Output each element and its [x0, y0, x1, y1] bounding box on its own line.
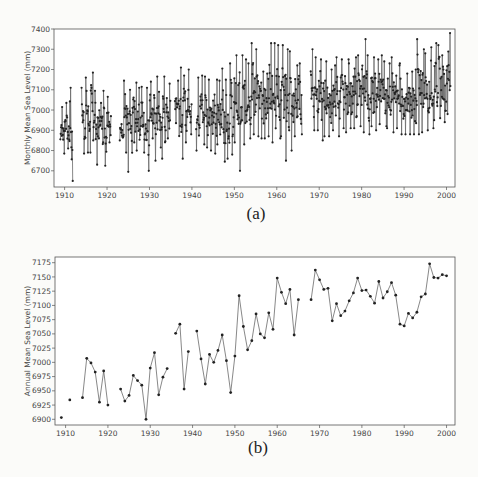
- data-point: [390, 281, 393, 284]
- data-point: [407, 312, 410, 315]
- data-point: [289, 288, 292, 291]
- y-tick-label: 6900: [32, 415, 51, 424]
- data-point: [119, 388, 122, 391]
- x-tick-label: 2000: [437, 429, 456, 438]
- data-point: [297, 298, 300, 301]
- y-tick-label: 7025: [32, 344, 51, 353]
- data-point: [178, 323, 181, 326]
- data-point: [293, 334, 296, 337]
- data-point: [81, 396, 84, 399]
- annual-sea-level-chart: 1910192019301940195019601970198019902000…: [0, 0, 478, 445]
- data-point: [200, 358, 203, 361]
- data-point: [276, 277, 279, 280]
- data-point: [68, 399, 71, 402]
- data-point: [424, 293, 427, 296]
- data-point: [377, 280, 380, 283]
- data-point: [195, 330, 198, 333]
- data-point: [132, 374, 135, 377]
- data-point: [255, 313, 258, 316]
- x-tick-label: 1990: [395, 429, 414, 438]
- data-point: [233, 355, 236, 358]
- y-tick-label: 7150: [32, 273, 51, 282]
- y-tick-label: 7125: [32, 287, 51, 296]
- data-point: [94, 371, 97, 374]
- x-tick-label: 1960: [268, 429, 287, 438]
- plot-frame: [55, 257, 455, 425]
- data-point: [386, 290, 389, 293]
- data-point: [246, 348, 249, 351]
- data-point: [204, 383, 207, 386]
- data-point: [445, 274, 448, 277]
- x-tick-label: 1980: [352, 429, 371, 438]
- data-point: [314, 269, 317, 272]
- data-point: [153, 351, 156, 354]
- data-point: [394, 294, 397, 297]
- y-tick-label: 6950: [32, 386, 51, 395]
- data-point: [217, 349, 220, 352]
- data-point: [441, 273, 444, 276]
- data-point: [280, 291, 283, 294]
- data-point: [85, 357, 88, 360]
- data-point: [428, 262, 431, 265]
- data-point: [90, 362, 93, 365]
- data-point: [360, 289, 363, 292]
- data-point: [403, 325, 406, 328]
- data-point: [267, 311, 270, 314]
- data-point: [310, 298, 313, 301]
- data-point: [284, 302, 287, 305]
- data-point: [162, 376, 165, 379]
- data-point: [212, 361, 215, 364]
- x-tick-label: 1920: [98, 429, 117, 438]
- y-tick-label: 6975: [32, 372, 51, 381]
- data-point: [272, 328, 275, 331]
- data-point: [140, 384, 143, 387]
- y-tick-label: 7075: [32, 315, 51, 324]
- data-point: [399, 323, 402, 326]
- data-point: [102, 369, 105, 372]
- data-point: [318, 278, 321, 281]
- caption-b: (b): [238, 438, 278, 458]
- data-point: [60, 416, 63, 419]
- data-point: [411, 317, 414, 320]
- data-point: [356, 277, 359, 280]
- data-point: [335, 302, 338, 305]
- x-tick-label: 1910: [56, 429, 75, 438]
- data-point: [238, 294, 241, 297]
- data-point: [229, 391, 232, 394]
- data-point: [432, 276, 435, 279]
- data-point: [221, 334, 224, 337]
- data-point: [166, 367, 169, 370]
- data-point: [263, 336, 266, 339]
- data-point: [208, 353, 211, 356]
- y-tick-label: 7175: [32, 258, 51, 267]
- data-point: [322, 288, 325, 291]
- data-point: [331, 319, 334, 322]
- data-point: [187, 350, 190, 353]
- data-point: [242, 325, 245, 328]
- data-point: [416, 311, 419, 314]
- data-point: [369, 295, 372, 298]
- data-point: [145, 418, 148, 421]
- data-point: [250, 339, 253, 342]
- data-point: [149, 367, 152, 370]
- data-point: [365, 289, 368, 292]
- x-tick-label: 1970: [310, 429, 329, 438]
- data-point: [348, 299, 351, 302]
- data-point: [136, 379, 139, 382]
- y-tick-label: 7000: [32, 358, 51, 367]
- data-point: [107, 404, 110, 407]
- data-point: [183, 388, 186, 391]
- data-point: [123, 400, 126, 403]
- data-point: [420, 295, 423, 298]
- data-point: [128, 394, 131, 397]
- x-tick-label: 1950: [225, 429, 244, 438]
- data-point: [259, 332, 262, 335]
- data-point: [327, 287, 330, 290]
- x-tick-label: 1930: [141, 429, 160, 438]
- data-point: [174, 332, 177, 335]
- data-point: [382, 297, 385, 300]
- data-point: [339, 314, 342, 317]
- data-point: [373, 302, 376, 305]
- data-point: [157, 393, 160, 396]
- x-tick-label: 1940: [183, 429, 202, 438]
